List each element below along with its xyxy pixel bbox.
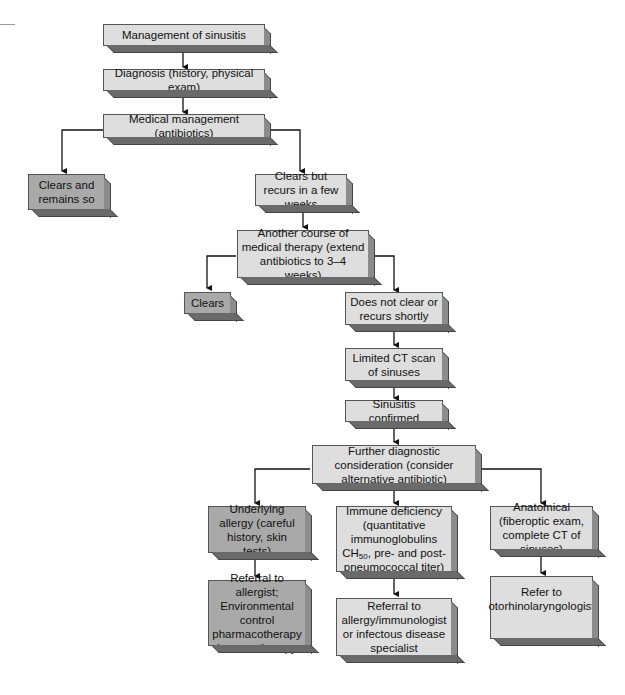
- node-label: Clears and remains so: [32, 178, 101, 206]
- node-label: Referral to allergy/immunologist or infe…: [340, 599, 448, 655]
- node-does-not-clear: Does not clear or recurs shortly: [345, 292, 443, 325]
- node-label: Clears but recurs in a few weeks: [259, 169, 343, 211]
- label-subscript: 50: [359, 552, 368, 561]
- node-label: Immune deficiency (quantitative immunogl…: [340, 504, 448, 574]
- node-label: Anatomical (fiberoptic exam, complete CT…: [494, 500, 589, 556]
- node-further-diagnostic: Further diagnostic consideration (consid…: [312, 445, 476, 484]
- node-label: Another course of medical therapy (exten…: [241, 226, 365, 282]
- node-clears: Clears: [184, 292, 231, 314]
- node-immune-deficiency: Immune deficiency (quantitative immunogl…: [336, 506, 452, 572]
- node-label: Limited CT scan of sinuses: [349, 351, 439, 379]
- node-another-course: Another course of medical therapy (exten…: [237, 230, 369, 278]
- node-limited-ct-scan: Limited CT scan of sinuses: [345, 348, 443, 381]
- node-management-of-sinusitis: Management of sinusitis: [103, 24, 265, 46]
- node-clears-but-recurs: Clears but recurs in a few weeks: [255, 174, 347, 206]
- node-anatomical: Anatomical (fiberoptic exam, complete CT…: [490, 506, 593, 550]
- node-label: Diagnosis (history, physical exam): [107, 66, 261, 94]
- node-diagnosis: Diagnosis (history, physical exam): [103, 69, 265, 91]
- node-refer-otorhinolaryngologist: Refer to otorhinolaryngologist: [490, 576, 593, 639]
- node-referral-allergist: Referral to allergist; Environmental con…: [208, 580, 306, 646]
- node-label: Refer to otorhinolaryngologist: [488, 585, 594, 613]
- node-label: Underlying allergy (careful history, ski…: [212, 502, 302, 558]
- node-underlying-allergy: Underlying allergy (careful history, ski…: [208, 506, 306, 553]
- node-label: Management of sinusitis: [122, 28, 246, 42]
- node-referral-immunologist: Referral to allergy/immunologist or infe…: [336, 598, 452, 656]
- label-part: , pre- and post-pneumococcal titer): [344, 547, 446, 573]
- node-clears-and-remains: Clears and remains so: [28, 174, 105, 210]
- node-label: Medical management (antibiotics): [107, 112, 261, 140]
- node-label: Does not clear or recurs shortly: [349, 295, 439, 323]
- node-label: Clears: [191, 296, 224, 310]
- node-label: Sinusitis confirmed: [349, 397, 439, 425]
- node-medical-management: Medical management (antibiotics): [103, 114, 265, 138]
- node-label: Further diagnostic consideration (consid…: [316, 444, 472, 486]
- node-label: Referral to allergist; Environmental con…: [212, 571, 302, 655]
- node-sinusitis-confirmed: Sinusitis confirmed: [345, 400, 443, 422]
